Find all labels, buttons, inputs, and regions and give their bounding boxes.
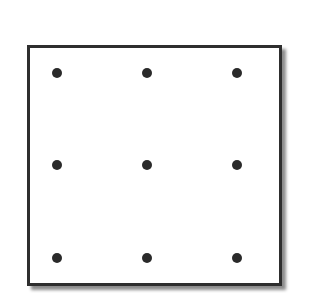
- dot-r1-c1: [142, 160, 152, 170]
- dot-r2-c0: [52, 253, 62, 263]
- dot-r0-c2: [232, 68, 242, 78]
- dot-r2-c1: [142, 253, 152, 263]
- square-frame: [27, 45, 282, 286]
- dot-r1-c2: [232, 160, 242, 170]
- dot-r1-c0: [52, 160, 62, 170]
- dot-r2-c2: [232, 253, 242, 263]
- dot-r0-c1: [142, 68, 152, 78]
- dot-r0-c0: [52, 68, 62, 78]
